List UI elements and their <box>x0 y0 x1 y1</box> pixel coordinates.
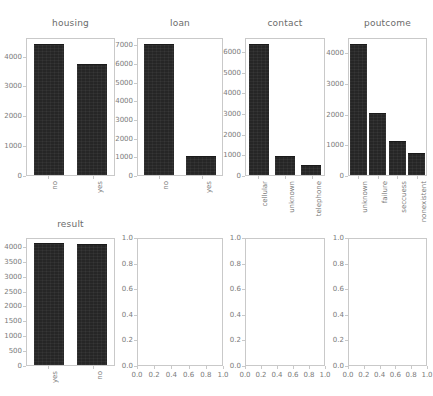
y-tick-label: 2000 <box>4 302 22 310</box>
bar-no <box>34 44 64 175</box>
y-tick-label: 6000 <box>223 48 241 56</box>
y-tick-mark <box>134 139 137 140</box>
x-tick-mark <box>202 176 203 179</box>
subplot-title-housing: housing <box>26 18 115 28</box>
bar-no <box>144 44 174 175</box>
y-tick-label: 1000 <box>4 142 22 150</box>
axes-frame-housing <box>26 38 115 176</box>
x-tick-mark <box>159 176 160 179</box>
x-axis-ticks: unknownfailureseccuessnonexistent <box>348 181 427 225</box>
y-tick-label: 3500 <box>4 258 22 266</box>
x-tick-label-no: no <box>162 181 170 190</box>
x-tick-mark <box>325 366 326 369</box>
x-tick-label: 0.8 <box>200 371 211 379</box>
y-tick-label: 0.0 <box>333 362 344 370</box>
y-tick-mark <box>345 145 348 146</box>
y-tick-mark <box>23 292 26 293</box>
x-tick-label: 1.0 <box>421 371 432 379</box>
x-tick-mark <box>277 366 278 369</box>
y-tick-label: 0 <box>129 172 133 180</box>
x-tick-mark <box>411 366 412 369</box>
y-tick-mark <box>242 114 245 115</box>
y-tick-label: 1000 <box>223 151 241 159</box>
x-tick-label: 0.4 <box>271 371 282 379</box>
x-tick-mark <box>93 176 94 179</box>
y-axis-ticks: 05001000150020002500300035004000 <box>0 238 22 366</box>
y-tick-label: 4000 <box>326 49 344 57</box>
y-tick-label: 3000 <box>115 116 133 124</box>
y-tick-mark <box>242 340 245 341</box>
axes-frame-empty-6 <box>245 238 325 366</box>
x-tick-mark <box>358 176 359 179</box>
plot-area <box>138 39 222 175</box>
x-tick-label: 0.0 <box>239 371 250 379</box>
y-tick-mark <box>23 116 26 117</box>
y-tick-mark <box>134 340 137 341</box>
subplot-title-result: result <box>26 219 115 229</box>
y-tick-mark <box>134 64 137 65</box>
y-tick-label: 0.4 <box>230 311 241 319</box>
x-tick-mark <box>348 366 349 369</box>
x-tick-label-failure: failure <box>381 181 389 203</box>
y-tick-mark <box>345 264 348 265</box>
y-tick-mark <box>23 86 26 87</box>
y-axis-ticks: 0.00.20.40.60.81.0 <box>103 238 133 366</box>
y-tick-mark <box>242 238 245 239</box>
y-tick-label: 2000 <box>223 131 241 139</box>
x-axis-ticks: 0.00.20.40.60.81.0 <box>245 371 325 383</box>
y-axis-ticks: 0100020003000400050006000 <box>211 38 241 176</box>
y-tick-mark <box>134 120 137 121</box>
plot-area <box>246 39 324 175</box>
x-tick-mark <box>245 366 246 369</box>
y-tick-label: 0.6 <box>333 285 344 293</box>
x-tick-label: 0.6 <box>287 371 298 379</box>
y-tick-label: 2000 <box>4 112 22 120</box>
y-tick-label: 0 <box>340 172 344 180</box>
y-tick-mark <box>242 315 245 316</box>
y-tick-mark <box>345 115 348 116</box>
y-tick-label: 0.4 <box>122 311 133 319</box>
x-tick-label: 1.0 <box>217 371 228 379</box>
x-tick-label: 0.2 <box>358 371 369 379</box>
y-axis-ticks: 0.00.20.40.60.81.0 <box>211 238 241 366</box>
x-axis-ticks: noyes <box>137 181 223 225</box>
x-tick-label-no: no <box>51 181 59 190</box>
y-tick-mark <box>345 340 348 341</box>
y-tick-label: 0.8 <box>333 260 344 268</box>
x-tick-mark <box>261 366 262 369</box>
x-tick-mark <box>171 366 172 369</box>
bar-failure <box>369 113 386 175</box>
x-tick-label: 0.8 <box>303 371 314 379</box>
x-tick-mark <box>312 176 313 179</box>
y-tick-mark <box>134 264 137 265</box>
x-tick-label-seccuess: seccuess <box>400 181 408 213</box>
subplot-title-poutcome: poutcome <box>348 18 427 28</box>
axes-frame-result <box>26 238 115 366</box>
y-tick-label: 5000 <box>115 79 133 87</box>
y-tick-mark <box>345 315 348 316</box>
y-tick-mark <box>134 83 137 84</box>
y-tick-mark <box>242 176 245 177</box>
y-tick-label: 4000 <box>4 243 22 251</box>
y-tick-mark <box>242 93 245 94</box>
x-tick-mark <box>395 366 396 369</box>
y-tick-mark <box>23 247 26 248</box>
y-tick-mark <box>23 336 26 337</box>
y-tick-label: 4000 <box>223 89 241 97</box>
x-tick-mark <box>48 366 49 369</box>
x-tick-label-no: no <box>96 371 104 380</box>
y-tick-label: 0 <box>237 172 241 180</box>
bar-nonexistent <box>408 153 425 175</box>
y-tick-label: 0.8 <box>230 260 241 268</box>
x-tick-label-telephone: telephone <box>315 181 323 216</box>
bar-unknown <box>275 156 295 175</box>
y-tick-mark <box>23 351 26 352</box>
x-axis-ticks: 0.00.20.40.60.81.0 <box>348 371 427 383</box>
bar-cellular <box>249 44 269 175</box>
x-tick-label: 0.2 <box>255 371 266 379</box>
y-axis-ticks: 01000200030004000 <box>314 38 344 176</box>
x-tick-label: 0.8 <box>406 371 417 379</box>
x-tick-label-yes: yes <box>51 371 59 383</box>
y-tick-mark <box>134 176 137 177</box>
x-tick-label-yes: yes <box>96 181 104 193</box>
